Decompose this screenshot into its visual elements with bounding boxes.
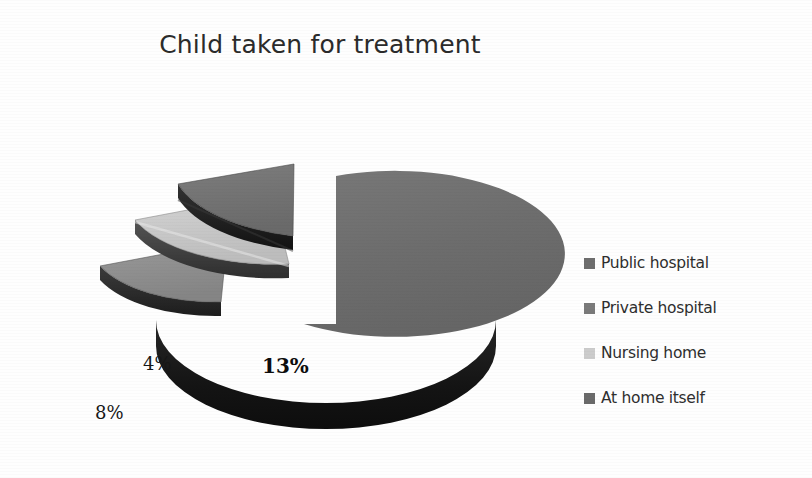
- data-label-nursing-home: 8%: [95, 404, 124, 422]
- legend-label-private-hospital: Private hospital: [601, 299, 717, 317]
- legend-swatch-icon: [584, 303, 595, 314]
- data-label-private-hospital: 13%: [262, 356, 309, 376]
- legend-swatch-icon: [584, 348, 595, 359]
- data-label-at-home-itself: 4%: [143, 355, 172, 373]
- legend-item-public-hospital[interactable]: Public hospital: [584, 248, 804, 278]
- pie-slice-public-hospital-side: [156, 320, 496, 429]
- pie-slice-public-hospital-face: [304, 171, 565, 337]
- legend-item-private-hospital[interactable]: Private hospital: [584, 293, 804, 323]
- legend-swatch-icon: [584, 393, 595, 404]
- chart-legend: Public hospital Private hospital Nursing…: [584, 248, 804, 428]
- legend-label-at-home-itself: At home itself: [601, 389, 705, 407]
- legend-swatch-icon: [584, 258, 595, 269]
- chart-screenshot: Child taken for treatment: [0, 0, 812, 478]
- pie-chart-plot-area: 75% 13% 8% 4%: [40, 150, 570, 450]
- legend-item-at-home-itself[interactable]: At home itself: [584, 383, 804, 413]
- page-title: Child taken for treatment: [0, 30, 640, 59]
- legend-label-public-hospital: Public hospital: [601, 254, 709, 272]
- legend-label-nursing-home: Nursing home: [601, 344, 706, 362]
- legend-item-nursing-home[interactable]: Nursing home: [584, 338, 804, 368]
